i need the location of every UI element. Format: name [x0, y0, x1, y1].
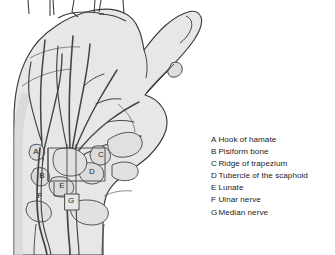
finger-stub-5: [28, 0, 29, 14]
bone-trapezoid: [112, 162, 138, 181]
bone-label-f: F: [38, 191, 43, 200]
legend-item: AHook of hamate: [211, 134, 335, 146]
legend-item: ELunate: [211, 182, 335, 194]
legend-label: Hook of hamate: [218, 135, 276, 144]
legend-item: FUlnar nerve: [211, 194, 335, 206]
finger-stub-4b: [53, 0, 54, 15]
anatomy-figure: A B C D E F G AHook of hamate BPisiform …: [0, 0, 335, 255]
legend-label: Lunate: [218, 183, 243, 192]
legend-item: GMedian nerve: [211, 207, 335, 219]
legend-label: Median nerve: [218, 208, 268, 217]
legend-item: BPisiform bone: [211, 146, 335, 158]
anatomy-legend: AHook of hamate BPisiform bone CRidge of…: [211, 134, 335, 219]
bone-label-g: G: [68, 196, 74, 205]
legend-label: Ulnar nerve: [218, 195, 260, 204]
hand-palmar-anatomy-illustration: A B C D E F G: [0, 0, 205, 255]
finger-stub-1: [123, 0, 124, 14]
bone-label-d: D: [89, 167, 95, 176]
bone-label-b: B: [39, 171, 44, 180]
legend-item: DTubercle of the scaphoid: [211, 170, 335, 182]
bone-label-e: E: [59, 181, 64, 190]
bone-label-c: C: [98, 150, 104, 159]
bone-label-a: A: [33, 147, 39, 156]
legend-item: CRidge of trapezium: [211, 158, 335, 170]
legend-label: Ridge of trapezium: [218, 159, 287, 168]
legend-label: Pisiform bone: [218, 147, 268, 156]
bone-capitate: [53, 148, 87, 176]
legend-label: Tubercle of the scaphoid: [218, 171, 308, 180]
